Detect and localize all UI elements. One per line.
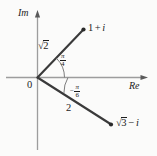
fraction-numerator: π xyxy=(60,53,66,60)
argand-diagram-figure: Im Re 0 1+i √2 π 4 − π 6 2 √3 −i xyxy=(0,0,157,156)
modulus-label-2: 2 xyxy=(66,103,71,114)
point-operator: + xyxy=(93,22,102,33)
point-real-part: 3 xyxy=(121,117,127,129)
angle-label-minus-pi-over-6: − π 6 xyxy=(70,84,80,99)
imaginary-axis xyxy=(35,10,40,150)
fraction-denominator: 4 xyxy=(60,60,66,68)
angle-sign: − xyxy=(70,88,74,95)
modulus-label-sqrt-2: √2 xyxy=(38,40,49,52)
fraction-pi-over-4: π 4 xyxy=(60,53,66,68)
origin-label: 0 xyxy=(27,80,32,91)
point-operator: − xyxy=(127,117,136,128)
fraction-denominator: 6 xyxy=(74,91,80,99)
point-label-1-plus-i: 1+i xyxy=(88,23,105,34)
imaginary-axis-label: Im xyxy=(18,8,29,18)
point-label-sqrt3-minus-i: √3 −i xyxy=(116,117,139,129)
fraction-numerator: π xyxy=(74,84,80,91)
imaginary-unit: i xyxy=(136,117,139,128)
real-axis-label: Re xyxy=(129,81,140,91)
imaginary-unit: i xyxy=(102,22,105,33)
fraction-pi-over-6: π 6 xyxy=(74,84,80,99)
diagram-canvas xyxy=(0,0,157,156)
angle-label-pi-over-4: π 4 xyxy=(60,53,66,68)
modulus-value: 2 xyxy=(43,40,49,52)
angle-arc-minus-pi-over-6 xyxy=(64,78,68,94)
